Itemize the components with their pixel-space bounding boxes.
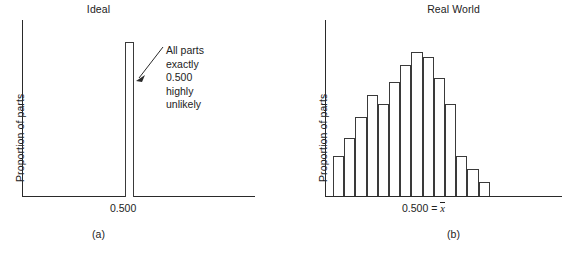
histogram-bar	[467, 169, 478, 196]
panel-a-y-axis-label: Proportion of parts	[14, 94, 26, 182]
histogram-bar	[479, 182, 490, 196]
panel-a-y-axis	[22, 20, 23, 197]
histogram-bar	[411, 52, 422, 196]
panel-a-caption: (a)	[0, 228, 239, 240]
histogram-bar	[434, 78, 445, 196]
panel-a-x-axis	[22, 196, 255, 197]
bar-spike-0500	[125, 42, 134, 197]
histogram-bar	[367, 95, 378, 196]
panel-a-x-tick-label: 0.500	[110, 202, 136, 214]
annotation-leader-arrow	[0, 0, 281, 264]
histogram-bar	[456, 156, 467, 196]
panel-b-caption: (b)	[313, 228, 562, 240]
panel-ideal: Ideal Proportion of parts All parts exac…	[0, 0, 281, 264]
panel-real-world: Real World Proportion of parts Approxima…	[281, 0, 562, 264]
panel-b-x-tick-value: 0.500 =	[402, 202, 440, 214]
histogram-bar	[400, 65, 411, 196]
histogram-bar	[378, 104, 389, 196]
histogram-bar	[355, 117, 366, 196]
histogram-bar	[445, 104, 456, 196]
panel-a-annotation: All parts exactly 0.500 highly unlikely	[166, 44, 204, 112]
histogram-bar	[389, 82, 400, 196]
histogram-bar	[333, 156, 344, 196]
x-bar-symbol: x	[440, 203, 445, 214]
histogram-bar	[423, 57, 434, 196]
panel-a-title: Ideal	[0, 3, 239, 15]
annotation-line: 0.500	[166, 71, 204, 85]
annotation-line: exactly	[166, 58, 204, 72]
panel-b-x-tick-label: 0.500 = x	[402, 202, 445, 214]
histogram-bar	[344, 138, 355, 196]
annotation-line: All parts	[166, 44, 204, 58]
annotation-line: highly	[166, 85, 204, 99]
histogram	[281, 0, 562, 264]
annotation-line: unlikely	[166, 98, 204, 112]
